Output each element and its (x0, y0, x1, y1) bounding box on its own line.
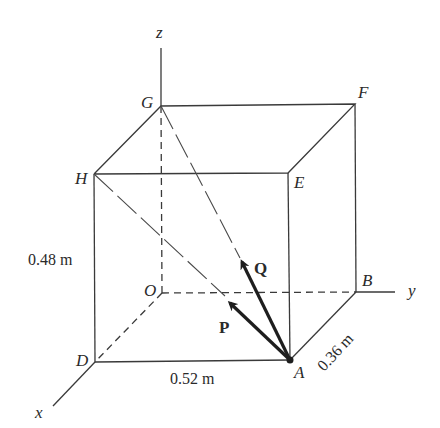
label-vector-Q: Q (254, 259, 267, 278)
label-D: D (75, 351, 89, 370)
hidden-edge-OG (161, 106, 162, 293)
label-G: G (141, 93, 153, 112)
vector-P (230, 303, 290, 360)
dimension-height: 0.48 m (28, 251, 73, 268)
edge-DA (95, 360, 290, 362)
edge-HD (94, 174, 95, 362)
x-axis (53, 362, 95, 406)
label-z-axis: z (155, 23, 163, 42)
label-O: O (144, 281, 156, 300)
point-A-dot (287, 357, 294, 364)
dimension-depth: 0.36 m (314, 330, 357, 375)
top-face (94, 104, 355, 174)
label-y-axis: y (406, 281, 416, 300)
label-B: B (362, 271, 373, 290)
hidden-edge-OB (162, 292, 356, 293)
hidden-edge-OD (95, 293, 162, 362)
label-E: E (293, 173, 305, 192)
box-force-diagram: G H F E O B D A z y x 0.48 m 0.52 m 0.36… (0, 0, 440, 428)
edge-FB (355, 104, 356, 292)
label-F: F (357, 83, 369, 102)
edge-EA (288, 173, 290, 360)
dimension-length: 0.52 m (170, 370, 215, 387)
label-H: H (74, 169, 89, 188)
label-x-axis: x (34, 403, 43, 422)
line-GA (161, 106, 240, 258)
label-A: A (293, 363, 305, 382)
label-vector-P: P (219, 318, 229, 337)
